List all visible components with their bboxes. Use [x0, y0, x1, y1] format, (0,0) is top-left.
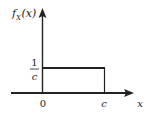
y-tick-numerator: 1: [31, 57, 37, 68]
y-tick-denominator: c: [32, 71, 38, 82]
x-tick-c-label: c: [101, 98, 107, 109]
x-axis-label: x: [137, 98, 143, 109]
uniform-pdf-diagram: fX(x) 1 c 0 c x: [0, 0, 147, 120]
y-axis-label: fX(x): [11, 7, 36, 22]
origin-label: 0: [40, 98, 46, 109]
